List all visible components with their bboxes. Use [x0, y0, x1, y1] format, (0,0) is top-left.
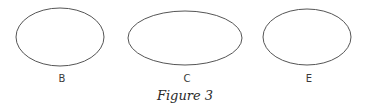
figure-caption: Figure 3 [157, 88, 213, 103]
ellipse-c [128, 11, 242, 65]
figure-canvas: B C E Figure 3 [0, 0, 367, 109]
label-b: B [59, 74, 66, 84]
label-e: E [306, 74, 312, 84]
ellipse-e [263, 9, 351, 65]
label-c: C [184, 74, 191, 84]
ellipse-b [16, 8, 104, 66]
